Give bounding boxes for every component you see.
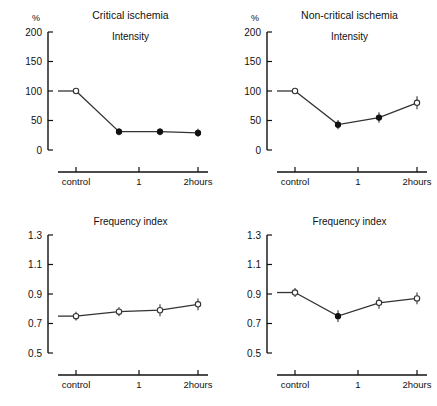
x-axis-tick-label: 1 [136, 176, 141, 187]
panel-subtitle: Intensity [331, 31, 368, 42]
data-point-filled [195, 130, 200, 135]
data-point-open [116, 309, 121, 314]
y-axis-tick-label: 0.9 [247, 289, 261, 300]
y-axis-tick-label: 0.7 [247, 318, 261, 329]
panel-critical-frequency: Frequency index1.31.10.90.70.5control12h… [0, 203, 218, 406]
y-axis-tick-label: 0 [36, 145, 42, 156]
panel-subtitle: Frequency index [313, 216, 387, 227]
y-axis-tick-label: 1.3 [247, 230, 261, 241]
y-axis-tick-label: 200 [25, 27, 42, 38]
y-axis-unit-label: % [32, 13, 40, 23]
data-point-open [292, 290, 297, 295]
panel-critical-intensity: %Critical ischemiaIntensity200150100500c… [0, 0, 218, 203]
data-point-filled [116, 129, 121, 134]
y-axis-tick-label: 150 [25, 56, 42, 67]
y-axis-tick-label: 150 [244, 56, 261, 67]
y-axis-tick-label: 1.1 [247, 259, 261, 270]
data-series-line [76, 304, 198, 316]
panel-noncritical-frequency: Frequency index1.31.10.90.70.5control12h… [219, 203, 437, 406]
y-axis-tick-label: 50 [250, 115, 262, 126]
x-axis-tick-label: control [281, 379, 310, 390]
panel-title: Non-critical ischemia [301, 9, 398, 21]
y-axis-tick-label: 0.9 [28, 289, 42, 300]
panel-subtitle: Intensity [112, 31, 149, 42]
data-point-open [157, 308, 162, 313]
data-point-filled [335, 314, 340, 319]
data-point-open [292, 88, 297, 93]
x-axis-tick-label: control [62, 379, 91, 390]
data-point-filled [376, 115, 381, 120]
y-axis-tick-label: 1.1 [28, 259, 42, 270]
y-axis-tick-label: 100 [244, 86, 261, 97]
y-axis-tick-label: 1.3 [28, 230, 42, 241]
data-point-open [195, 302, 200, 307]
panel-subtitle: Frequency index [94, 216, 168, 227]
data-point-filled [157, 129, 162, 134]
panel-title: Critical ischemia [92, 9, 169, 21]
data-point-open [376, 300, 381, 305]
y-axis-tick-label: 0.5 [247, 348, 261, 359]
chart-critical-intensity: %Critical ischemiaIntensity200150100500c… [0, 0, 218, 203]
chart-critical-frequency: Frequency index1.31.10.90.70.5control12h… [0, 203, 218, 406]
y-axis-tick-label: 0.7 [28, 318, 42, 329]
y-axis-tick-label: 0 [255, 145, 261, 156]
y-axis-tick-label: 0.5 [28, 348, 42, 359]
x-axis-tick-label: control [281, 176, 310, 187]
figure-container: %Critical ischemiaIntensity200150100500c… [0, 0, 437, 406]
x-axis-tick-label: 2hours [183, 379, 212, 390]
data-series-line [295, 91, 417, 125]
y-axis-tick-label: 200 [244, 27, 261, 38]
y-axis-tick-label: 50 [31, 115, 43, 126]
data-point-open [414, 100, 419, 105]
panel-noncritical-intensity: %Non-critical ischemiaIntensity200150100… [219, 0, 437, 203]
chart-noncritical-frequency: Frequency index1.31.10.90.70.5control12h… [219, 203, 437, 406]
x-axis-tick-label: control [62, 176, 91, 187]
x-axis-tick-label: 2hours [402, 176, 431, 187]
x-axis-tick-label: 2hours [402, 379, 431, 390]
x-axis-tick-label: 1 [355, 379, 360, 390]
x-axis-tick-label: 2hours [183, 176, 212, 187]
data-point-open [414, 296, 419, 301]
data-series-line [76, 91, 198, 133]
y-axis-unit-label: % [251, 13, 259, 23]
data-point-open [73, 313, 78, 318]
x-axis-tick-label: 1 [355, 176, 360, 187]
data-point-filled [335, 122, 340, 127]
chart-noncritical-intensity: %Non-critical ischemiaIntensity200150100… [219, 0, 437, 203]
data-point-open [73, 88, 78, 93]
data-series-line [295, 293, 417, 317]
x-axis-tick-label: 1 [136, 379, 141, 390]
y-axis-tick-label: 100 [25, 86, 42, 97]
